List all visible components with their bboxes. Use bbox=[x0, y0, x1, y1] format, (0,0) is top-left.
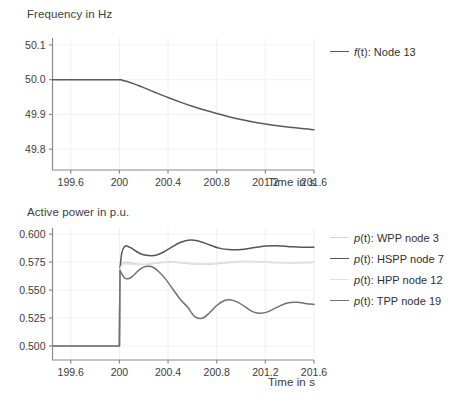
x-tick-label: 200 bbox=[111, 366, 129, 378]
y-tick-label: 0.500 bbox=[19, 340, 45, 352]
x-tick-label: 199.6 bbox=[58, 176, 84, 188]
frequency-x-axis-title: Time in s bbox=[268, 176, 315, 188]
x-tick-label: 200.8 bbox=[204, 176, 230, 188]
legend-item[interactable]: p(t): TPP node 19 bbox=[330, 291, 444, 310]
legend-item-label: p(t): HSPP node 7 bbox=[354, 253, 444, 265]
x-tick-label: 200.4 bbox=[155, 176, 181, 188]
legend-item[interactable]: p(t): WPP node 3 bbox=[330, 228, 444, 247]
series-line-0 bbox=[53, 80, 315, 130]
frequency-legend: f(t): Node 13 bbox=[330, 42, 416, 63]
legend-item-label: f(t): Node 13 bbox=[354, 46, 416, 58]
legend-item[interactable]: p(t): HSPP node 7 bbox=[330, 249, 444, 268]
frequency-plot-area: 50.150.049.949.8199.6200200.4200.8201.22… bbox=[0, 0, 458, 200]
x-tick-label: 200.8 bbox=[204, 366, 230, 378]
y-tick-label: 0.575 bbox=[19, 256, 45, 268]
power-chart-panel: Active power in p.u. 0.6000.5750.5500.52… bbox=[0, 198, 458, 398]
frequency-chart-panel: Frequency in Hz 50.150.049.949.8199.6200… bbox=[0, 0, 458, 200]
legend-item-label: p(t): WPP node 3 bbox=[354, 232, 439, 244]
y-tick-label: 0.550 bbox=[19, 284, 45, 296]
y-tick-label: 0.525 bbox=[19, 312, 45, 324]
legend-item-label: p(t): TPP node 19 bbox=[354, 295, 441, 307]
y-tick-label: 50.1 bbox=[25, 39, 46, 51]
x-tick-label: 199.6 bbox=[58, 366, 84, 378]
legend-item[interactable]: f(t): Node 13 bbox=[330, 42, 416, 61]
power-legend: p(t): WPP node 3p(t): HSPP node 7p(t): H… bbox=[330, 228, 444, 312]
legend-color-swatch bbox=[330, 51, 349, 52]
power-x-axis-title: Time in s bbox=[268, 376, 315, 388]
y-tick-label: 49.9 bbox=[25, 108, 46, 120]
series-line-3 bbox=[119, 271, 120, 347]
legend-color-swatch bbox=[330, 237, 349, 238]
x-tick-label: 200.4 bbox=[155, 366, 181, 378]
x-tick-label: 200 bbox=[111, 176, 129, 188]
legend-color-swatch bbox=[330, 300, 349, 301]
legend-color-swatch bbox=[330, 258, 349, 259]
y-tick-label: 50.0 bbox=[25, 73, 46, 85]
y-tick-label: 0.600 bbox=[19, 228, 45, 240]
y-tick-label: 49.8 bbox=[25, 143, 46, 155]
legend-color-swatch bbox=[330, 279, 349, 280]
figure-root: Frequency in Hz 50.150.049.949.8199.6200… bbox=[0, 0, 458, 398]
legend-item-label: p(t): HPP node 12 bbox=[354, 274, 443, 286]
legend-item[interactable]: p(t): HPP node 12 bbox=[330, 270, 444, 289]
